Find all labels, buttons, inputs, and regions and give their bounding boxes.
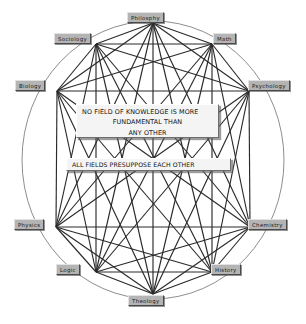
node-chemistry-label: Chemistry (252, 222, 283, 228)
edge-sociology-psychology (96, 44, 249, 91)
callout-no-field-fundamental: NO FIELD OF KNOWLEDGE IS MORE FUNDAMENTA… (76, 104, 219, 138)
node-biology-label: Biology (19, 83, 41, 89)
node-sociology-label: Sociology (58, 36, 87, 42)
node-biology[interactable]: Biology (15, 80, 45, 91)
edge-math-biology (57, 44, 212, 91)
node-chemistry[interactable]: Chemistry (248, 219, 287, 230)
edge-chemistry-theology (153, 227, 250, 294)
callout-all-fields-presuppose: ALL FIELDS PRESUPPOSE EACH OTHER (66, 158, 231, 171)
node-sociology[interactable]: Sociology (54, 33, 91, 44)
node-philosophy-label: Philosphy (131, 15, 160, 21)
node-psychology[interactable]: Psychology (248, 80, 290, 91)
node-theology[interactable]: Theology (128, 295, 164, 306)
node-logic[interactable]: Logic (56, 264, 80, 275)
callout-2-line-1: ALL FIELDS PRESUPPOSE EACH OTHER (72, 159, 230, 171)
node-physics[interactable]: Physics (14, 219, 44, 230)
callout-1-line-2: FUNDAMENTAL THAN (77, 117, 218, 127)
node-math-label: Math (217, 36, 232, 42)
node-math[interactable]: Math (213, 33, 236, 44)
callout-1-line-3: ANY OTHER (77, 128, 218, 138)
node-physics-label: Physics (18, 222, 40, 228)
node-psychology-label: Psychology (252, 83, 286, 89)
edge-psychology-chemistry (249, 91, 250, 227)
node-logic-label: Logic (60, 267, 76, 273)
node-philosophy[interactable]: Philosphy (127, 12, 164, 23)
node-theology-label: Theology (132, 298, 160, 304)
callout-1-line-1: NO FIELD OF KNOWLEDGE IS MORE (77, 107, 218, 117)
edge-biology-physics (56, 91, 57, 227)
node-history-label: History (215, 267, 237, 273)
diagram-canvas: PhilosphySociologyMathBiologyPsychologyP… (0, 0, 306, 324)
node-history[interactable]: History (211, 264, 241, 275)
edge-math-psychology (212, 44, 249, 91)
